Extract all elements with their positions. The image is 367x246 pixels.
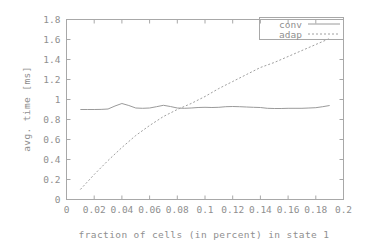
x-tick-label: 0.04 bbox=[110, 204, 133, 215]
chart-svg: 00.020.040.060.080.10.120.140.160.180.2 … bbox=[0, 0, 367, 246]
x-tick-label: 0.08 bbox=[166, 204, 189, 215]
y-tick-label: 1 bbox=[55, 94, 61, 105]
y-tick-label: 0 bbox=[55, 194, 61, 205]
x-tick-label: 0 bbox=[64, 204, 70, 215]
y-tick-label: 0.6 bbox=[43, 134, 60, 145]
x-tick-label: 0.18 bbox=[304, 204, 327, 215]
y-tick-label: 1.4 bbox=[43, 54, 60, 65]
y-tick-label: 0.2 bbox=[43, 174, 60, 185]
x-tick-label: 0.02 bbox=[83, 204, 106, 215]
x-tick-label: 0.14 bbox=[249, 204, 272, 215]
x-tick-label: 0.06 bbox=[138, 204, 161, 215]
y-tick-label: 0.4 bbox=[43, 154, 60, 165]
x-tick-label: 0.12 bbox=[221, 204, 244, 215]
x-axis-title: fraction of cells (in percent) in state … bbox=[79, 229, 330, 240]
legend-label-adap: adap bbox=[279, 29, 302, 40]
x-tick-label: 0.2 bbox=[335, 204, 352, 215]
y-axis-title: avg. time [ms] bbox=[21, 66, 32, 152]
y-tick-label: 1.6 bbox=[43, 34, 60, 45]
x-tick-label: 0.16 bbox=[277, 204, 300, 215]
y-tick-label: 1.2 bbox=[43, 74, 60, 85]
y-tick-label: 1.8 bbox=[43, 14, 60, 25]
y-tick-label: 0.8 bbox=[43, 114, 60, 125]
x-tick-label: 0.1 bbox=[196, 204, 213, 215]
chart-figure: 00.020.040.060.080.10.120.140.160.180.2 … bbox=[0, 0, 367, 246]
